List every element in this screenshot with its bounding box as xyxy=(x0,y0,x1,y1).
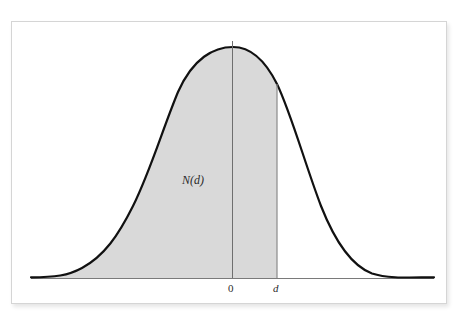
figure-root: N(d) 0 d xyxy=(0,0,467,326)
x-tick-label-d: d xyxy=(273,283,279,294)
normal-distribution-plot xyxy=(0,0,467,326)
area-label-nd: N(d) xyxy=(182,174,204,186)
shaded-area-under-curve xyxy=(31,47,277,278)
x-tick-label-zero: 0 xyxy=(228,283,234,294)
